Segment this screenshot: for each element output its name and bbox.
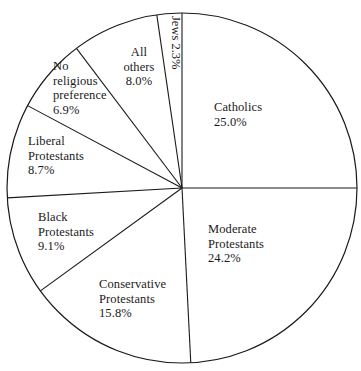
slice-label-black-protestants: Black Protestants 9.1% [38, 210, 94, 254]
slice-label-moderate-protestants: Moderate Protestants 24.2% [208, 222, 264, 266]
slice-label-jews: Jews 2.3% [169, 16, 183, 69]
slice-label-no-religious-preference: No religious preference 6.9% [53, 59, 107, 117]
pie-chart: Catholics 25.0% Moderate Protestants 24.… [0, 0, 361, 371]
slice-label-conservative-protestants: Conservative Protestants 15.8% [99, 277, 166, 321]
slice-label-catholics: Catholics 25.0% [214, 100, 262, 129]
slice-label-liberal-protestants: Liberal Protestants 8.7% [28, 134, 84, 178]
slice-label-all-others: All others 8.0% [108, 45, 170, 89]
